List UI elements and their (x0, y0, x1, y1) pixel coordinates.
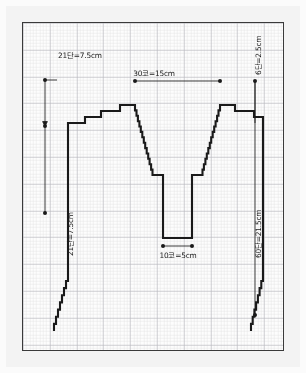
garment-outline-path (54, 105, 263, 331)
dimension-label-neck-base: 10코=5cm (159, 249, 196, 260)
schematic-page: 30코=15cm 6단=2.5cm 60단=21.5cm 21단=7.5cm 1… (0, 0, 306, 373)
dimension-lines-group (43, 78, 257, 317)
dimension-label-neck-width: 30코=15cm (133, 67, 175, 78)
chart-plate: 30코=15cm 6단=2.5cm 60단=21.5cm 21단=7.5cm 1… (22, 22, 284, 351)
dimension-label-armhole-depth: 21단=7.5cm (64, 212, 75, 256)
dimension-label-shoulder-step: 6단=2.5cm (252, 36, 263, 75)
dimension-label-shoulder-slope: 21단=7.5cm (58, 49, 102, 60)
dimension-label-total-length: 60단=21.5cm (252, 210, 263, 258)
